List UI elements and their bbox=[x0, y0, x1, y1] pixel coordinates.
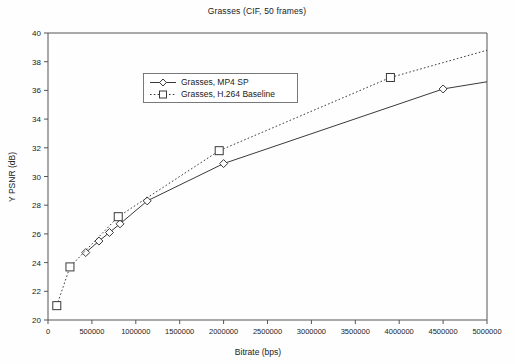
data-point-square bbox=[66, 263, 74, 271]
y-tick-label: 24 bbox=[32, 259, 41, 268]
x-tick-label: 1000000 bbox=[121, 327, 150, 336]
y-tick-label: 34 bbox=[32, 115, 41, 124]
y-axis-title: Y PSNR (dB) bbox=[7, 152, 17, 202]
series-line bbox=[86, 82, 487, 253]
chart-legend[interactable]: Grasses, MP4 SP Grasses, H.264 Baseline bbox=[144, 74, 298, 103]
x-tick-label: 4500000 bbox=[428, 327, 457, 336]
data-point-square bbox=[53, 302, 61, 310]
series-grasses-mp4-sp bbox=[82, 82, 487, 257]
x-tick-label: 2500000 bbox=[253, 327, 282, 336]
legend-label-mp4-sp: Grasses, MP4 SP bbox=[181, 77, 249, 87]
legend-marker-square bbox=[160, 91, 167, 98]
x-tick-label: 3500000 bbox=[341, 327, 370, 336]
y-tick-label: 20 bbox=[32, 316, 41, 325]
x-tick-label: 500000 bbox=[79, 327, 104, 336]
y-tick-label: 32 bbox=[32, 144, 41, 153]
y-axis-ticks: 2022242628303234363840 bbox=[32, 29, 48, 325]
data-point-square bbox=[215, 147, 223, 155]
data-point-diamond bbox=[439, 85, 447, 93]
x-tick-label: 4000000 bbox=[385, 327, 414, 336]
chart-plot-area: 2022242628303234363840 05000001000000150… bbox=[0, 0, 514, 364]
x-axis-ticks: 0500000100000015000002000000250000030000… bbox=[46, 320, 502, 336]
y-tick-label: 28 bbox=[32, 201, 41, 210]
data-point-square bbox=[114, 213, 122, 221]
chart-page: Grasses (CIF, 50 frames) 202224262830323… bbox=[0, 0, 514, 364]
y-tick-label: 40 bbox=[32, 29, 41, 38]
x-axis-title: Bitrate (bps) bbox=[235, 347, 281, 357]
y-tick-label: 36 bbox=[32, 86, 41, 95]
y-tick-label: 26 bbox=[32, 230, 41, 239]
y-tick-label: 22 bbox=[32, 287, 41, 296]
x-tick-label: 3000000 bbox=[297, 327, 326, 336]
x-tick-label: 0 bbox=[46, 327, 50, 336]
x-tick-label: 1500000 bbox=[165, 327, 194, 336]
x-tick-label: 2000000 bbox=[209, 327, 238, 336]
x-tick-label: 5000000 bbox=[472, 327, 501, 336]
legend-label-h264-baseline: Grasses, H.264 Baseline bbox=[181, 89, 275, 99]
data-point-square bbox=[386, 73, 394, 81]
y-tick-label: 30 bbox=[32, 173, 41, 182]
data-point-diamond bbox=[220, 160, 228, 168]
y-tick-label: 38 bbox=[32, 58, 41, 67]
